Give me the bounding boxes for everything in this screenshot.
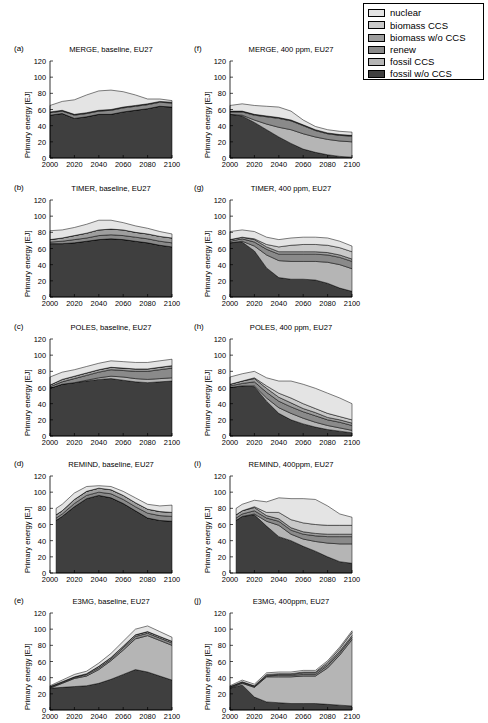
- legend-item: renew: [368, 44, 479, 56]
- legend-label-renew: renew: [390, 45, 416, 55]
- legend-item: fossil CCS: [368, 56, 479, 68]
- legend-label-biomass-wo-ccs: biomass w/o CCS: [390, 33, 466, 43]
- panel-title-e: E3MG, baseline, EU27: [72, 597, 149, 606]
- y-tick-label: 120: [200, 57, 226, 66]
- panel-title-i: REMIND, 400ppm, EU27: [249, 460, 334, 469]
- y-tick-label: 20: [200, 277, 226, 286]
- y-tick-label: 40: [20, 122, 46, 131]
- chart-panel-b: (b)TIMER, baseline, EU27Primary energy […: [14, 183, 190, 321]
- chart-panel-f: (f)MERGE, 400 ppm, EU27Primary energy [E…: [194, 44, 370, 182]
- chart-panel-h: (h)POLES, 400 ppm, EU27Primary energy [E…: [194, 322, 370, 460]
- panel-title-j: E3MG, 400ppm, EU27: [253, 597, 329, 606]
- y-tick-label: 40: [200, 537, 226, 546]
- x-tick-label: 2100: [338, 160, 366, 169]
- y-tick-label: 120: [200, 472, 226, 481]
- y-tick-label: 120: [200, 196, 226, 205]
- panel-title-d: REMIND, baseline, EU27: [68, 460, 154, 469]
- chart-panel-e: (e)E3MG, baseline, EU27Primary energy [E…: [14, 596, 190, 723]
- legend-swatch-nuclear: [368, 9, 385, 17]
- y-tick-label: 100: [200, 73, 226, 82]
- x-tick-label: 2100: [338, 438, 366, 447]
- legend-item: fossil w/o CCS: [368, 68, 479, 80]
- y-tick-label: 60: [200, 106, 226, 115]
- y-tick-label: 80: [200, 367, 226, 376]
- y-tick-label: 40: [20, 674, 46, 683]
- y-tick-label: 20: [200, 690, 226, 699]
- y-tick-label: 60: [200, 384, 226, 393]
- panel-letter-g: (g): [194, 183, 204, 192]
- y-tick-label: 40: [200, 122, 226, 131]
- y-tick-label: 20: [20, 277, 46, 286]
- y-tick-label: 100: [200, 212, 226, 221]
- panel-title-h: POLES, 400 ppm, EU27: [250, 323, 332, 332]
- y-tick-label: 120: [20, 335, 46, 344]
- y-tick-label: 100: [200, 351, 226, 360]
- panel-title-b: TIMER, baseline, EU27: [71, 184, 150, 193]
- legend-item: nuclear: [368, 7, 479, 19]
- y-tick-label: 80: [200, 641, 226, 650]
- x-tick-label: 2100: [338, 575, 366, 584]
- y-tick-label: 100: [20, 625, 46, 634]
- y-tick-label: 80: [200, 504, 226, 513]
- y-tick-label: 20: [20, 416, 46, 425]
- y-tick-label: 80: [200, 228, 226, 237]
- y-tick-label: 60: [20, 658, 46, 667]
- y-tick-label: 120: [200, 335, 226, 344]
- y-tick-label: 60: [20, 106, 46, 115]
- y-tick-label: 80: [20, 367, 46, 376]
- legend-swatch-biomass-ccs: [368, 21, 385, 29]
- x-tick-label: 2100: [158, 712, 186, 721]
- y-tick-label: 100: [20, 212, 46, 221]
- y-tick-label: 60: [20, 245, 46, 254]
- panel-letter-j: (j): [194, 596, 201, 605]
- y-tick-label: 20: [20, 690, 46, 699]
- x-tick-label: 2100: [158, 299, 186, 308]
- chart-panel-a: (a)MERGE, baseline, EU27Primary energy […: [14, 44, 190, 182]
- y-tick-label: 20: [200, 416, 226, 425]
- y-tick-label: 60: [200, 521, 226, 530]
- x-tick-label: 2100: [158, 160, 186, 169]
- chart-panel-g: (g)TIMER, 400 ppm, EU27Primary energy [E…: [194, 183, 370, 321]
- y-tick-label: 80: [20, 641, 46, 650]
- legend-label-nuclear: nuclear: [390, 8, 421, 18]
- area-band-fossil-w-o-ccs: [50, 379, 172, 436]
- y-tick-label: 100: [200, 625, 226, 634]
- y-tick-label: 60: [20, 384, 46, 393]
- panel-letter-e: (e): [14, 596, 24, 605]
- figure-panel-grid: nuclear biomass CCS biomass w/o CCS rene…: [0, 0, 488, 723]
- panel-letter-b: (b): [14, 183, 24, 192]
- y-tick-label: 60: [20, 521, 46, 530]
- y-tick-label: 20: [200, 138, 226, 147]
- legend-swatch-fossil-wo-ccs: [368, 70, 385, 78]
- chart-panel-c: (c)POLES, baseline, EU27Primary energy […: [14, 322, 190, 460]
- y-tick-label: 120: [20, 609, 46, 618]
- legend-item: biomass w/o CCS: [368, 32, 479, 44]
- legend-label-biomass-ccs: biomass CCS: [390, 21, 448, 31]
- legend-item: biomass CCS: [368, 19, 479, 31]
- panel-title-a: MERGE, baseline, EU27: [69, 45, 153, 54]
- y-tick-label: 60: [200, 245, 226, 254]
- chart-panel-i: (i)REMIND, 400ppm, EU27Primary energy [E…: [194, 459, 370, 597]
- x-tick-label: 2100: [158, 438, 186, 447]
- y-tick-label: 40: [200, 400, 226, 409]
- legend-swatch-biomass-wo-ccs: [368, 34, 385, 42]
- y-tick-label: 120: [200, 609, 226, 618]
- panel-letter-a: (a): [14, 44, 24, 53]
- panel-title-g: TIMER, 400 ppm, EU27: [251, 184, 332, 193]
- area-band-fossil-w-o-ccs: [50, 239, 172, 297]
- panel-title-c: POLES, baseline, EU27: [70, 323, 151, 332]
- y-tick-label: 20: [20, 553, 46, 562]
- y-tick-label: 100: [200, 488, 226, 497]
- y-tick-label: 100: [20, 73, 46, 82]
- legend-swatch-renew: [368, 46, 385, 54]
- chart-panel-d: (d)REMIND, baseline, EU27Primary energy …: [14, 459, 190, 597]
- panel-letter-h: (h): [194, 322, 204, 331]
- panel-letter-d: (d): [14, 459, 24, 468]
- legend: nuclear biomass CCS biomass w/o CCS rene…: [363, 3, 484, 80]
- y-tick-label: 100: [20, 351, 46, 360]
- y-tick-label: 20: [20, 138, 46, 147]
- y-tick-label: 40: [20, 537, 46, 546]
- y-tick-label: 80: [20, 228, 46, 237]
- chart-panel-j: (j)E3MG, 400ppm, EU27Primary energy [EJ]…: [194, 596, 370, 723]
- panel-title-f: MERGE, 400 ppm, EU27: [249, 45, 334, 54]
